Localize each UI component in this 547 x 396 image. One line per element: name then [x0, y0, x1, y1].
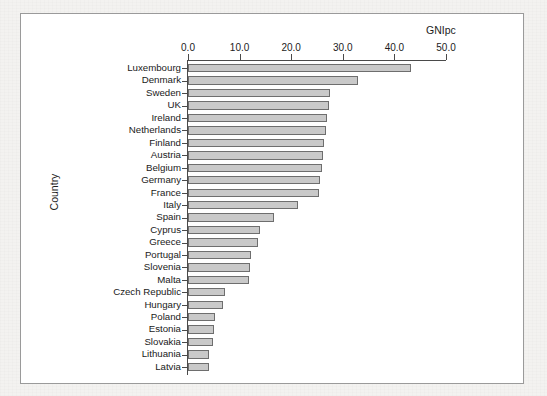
bar-row [188, 176, 320, 184]
bar [188, 101, 329, 109]
bar [188, 151, 323, 159]
figure-frame: GNIpc Country 0.010.020.030.040.050.0 Lu… [20, 13, 524, 384]
bar-row [188, 363, 209, 371]
bar-row [188, 89, 330, 97]
bar [188, 176, 320, 184]
bar [188, 226, 260, 234]
bar [188, 238, 258, 246]
bar [188, 288, 225, 296]
bar [188, 139, 324, 147]
bar-row [188, 126, 326, 134]
bar [188, 350, 209, 358]
bar-row [188, 213, 274, 221]
bar-row [188, 263, 250, 271]
x-tick-label: 40.0 [385, 42, 404, 53]
bar-row [188, 338, 213, 346]
bar [188, 338, 213, 346]
bar [188, 301, 223, 309]
bar-row [188, 301, 223, 309]
x-axis-tick-labels: 0.010.020.030.040.050.0 [21, 42, 525, 56]
bar [188, 76, 358, 84]
bar [188, 89, 330, 97]
bar [188, 114, 327, 122]
bar [188, 126, 326, 134]
bar-row [188, 151, 323, 159]
bar-row [188, 251, 251, 259]
bar-row [188, 101, 329, 109]
bar [188, 64, 411, 72]
bar [188, 276, 249, 284]
bar-chart: GNIpc Country 0.010.020.030.040.050.0 Lu… [21, 14, 525, 385]
x-tick-label: 0.0 [181, 42, 195, 53]
x-tick-label: 10.0 [230, 42, 249, 53]
bar-row [188, 114, 327, 122]
x-tick-label: 20.0 [281, 42, 300, 53]
bar-row [188, 189, 319, 197]
bar [188, 263, 250, 271]
bar [188, 363, 209, 371]
bar [188, 325, 214, 333]
bar [188, 313, 215, 321]
bar-row [188, 164, 322, 172]
bar-row [188, 288, 225, 296]
x-axis-title: GNIpc [401, 24, 481, 36]
bar [188, 164, 322, 172]
bar-row [188, 226, 260, 234]
bar [188, 251, 251, 259]
bar-row [188, 325, 214, 333]
x-tick-label: 30.0 [333, 42, 352, 53]
bars [21, 60, 525, 375]
bar-row [188, 201, 298, 209]
bar-row [188, 238, 258, 246]
x-tick-label: 50.0 [436, 42, 455, 53]
bar-row [188, 64, 411, 72]
bar-row [188, 276, 249, 284]
bar [188, 189, 319, 197]
bar-row [188, 313, 215, 321]
bar-row [188, 139, 324, 147]
bar-row [188, 76, 358, 84]
bar [188, 201, 298, 209]
bar-row [188, 350, 209, 358]
bar [188, 213, 274, 221]
